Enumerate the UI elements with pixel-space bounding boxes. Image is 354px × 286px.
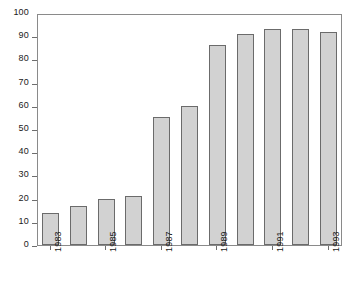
plot-area (37, 14, 342, 246)
y-axis-tick-label: 50 (19, 124, 29, 133)
bar (209, 45, 226, 245)
y-axis-tick-label: 100 (13, 8, 29, 17)
y-axis: 0102030405060708090100 (0, 0, 37, 286)
y-axis-tick-label: 20 (19, 194, 29, 203)
y-axis-tick-label: 40 (19, 147, 29, 156)
x-axis-tick-label: 1985 (109, 231, 118, 252)
bar (153, 117, 170, 245)
x-axis-tick-mark (328, 246, 329, 250)
x-axis: 198319851987198919911993 (0, 247, 354, 286)
y-axis-tick-label: 60 (19, 101, 29, 110)
x-axis-tick-label: 1991 (276, 231, 285, 252)
bar (181, 106, 198, 245)
bar (320, 32, 337, 245)
x-axis-tick-mark (216, 246, 217, 250)
bar (125, 196, 142, 245)
bar (237, 34, 254, 245)
bar (292, 29, 309, 245)
bar-chart: 0102030405060708090100 19831985198719891… (0, 0, 354, 286)
bar (264, 29, 281, 245)
y-axis-tick-label: 30 (19, 170, 29, 179)
y-axis-tick-label: 90 (19, 31, 29, 40)
bar (70, 206, 87, 245)
x-axis-tick-mark (50, 246, 51, 250)
x-axis-tick-label: 1987 (165, 231, 174, 252)
x-axis-tick-mark (272, 246, 273, 250)
x-axis-tick-label: 1989 (220, 231, 229, 252)
y-axis-tick-label: 70 (19, 78, 29, 87)
x-axis-tick-mark (161, 246, 162, 250)
x-axis-tick-mark (105, 246, 106, 250)
x-axis-tick-label: 1983 (54, 231, 63, 252)
x-axis-tick-label: 1993 (332, 231, 341, 252)
y-axis-tick-label: 10 (19, 217, 29, 226)
y-axis-tick-label: 80 (19, 54, 29, 63)
